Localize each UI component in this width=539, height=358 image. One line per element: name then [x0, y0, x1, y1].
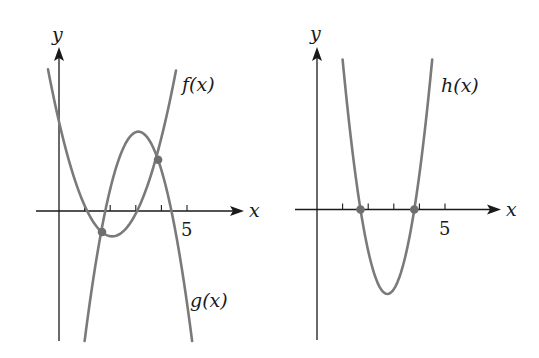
data-point: [154, 156, 163, 165]
data-point: [410, 205, 419, 214]
left-graph: y x 5 f(x) g(x): [36, 23, 260, 341]
tick-label-5: 5: [439, 218, 450, 239]
x-axis-label: x: [249, 199, 260, 221]
y-axis-label: y: [51, 23, 63, 45]
h-label: h(x): [441, 74, 479, 96]
right-graph: y x 5 h(x): [295, 22, 517, 340]
data-point: [98, 228, 107, 237]
data-point: [356, 205, 365, 214]
f-label: f(x): [180, 73, 215, 95]
h-curve: [343, 60, 433, 294]
g-curve: [85, 132, 193, 341]
figure: y x 5 f(x) g(x) y x 5 h(x): [0, 0, 539, 358]
x-axis-label: x: [506, 198, 517, 220]
y-axis-label: y: [309, 22, 321, 44]
tick-label-5: 5: [181, 219, 192, 240]
g-label: g(x): [190, 289, 228, 311]
